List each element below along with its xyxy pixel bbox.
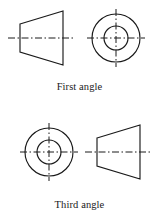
- first-angle-caption: First angle: [0, 81, 159, 92]
- third-angle-cone-view: [85, 125, 152, 179]
- orthographic-projection-figure: First angle Third angle: [0, 0, 159, 217]
- third-angle-circle-view: [20, 123, 78, 181]
- third-angle-panel: [20, 123, 152, 181]
- first-angle-cone-view: [8, 11, 75, 65]
- third-angle-caption: Third angle: [0, 199, 159, 210]
- first-angle-circle-view: [87, 9, 145, 67]
- first-angle-panel: [8, 9, 145, 67]
- technical-drawing-canvas: [0, 0, 159, 217]
